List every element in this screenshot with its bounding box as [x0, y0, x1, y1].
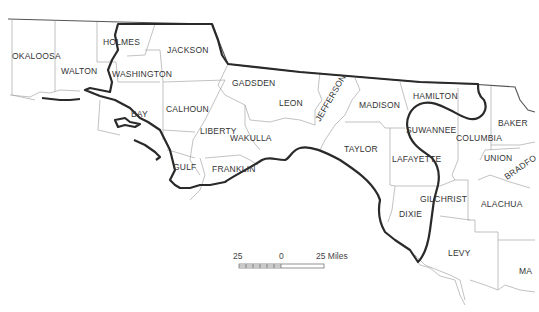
county-label-calhoun: CALHOUN: [166, 104, 209, 114]
county-label-leon: LEON: [279, 98, 303, 108]
county-label-okaloosa: OKALOOSA: [12, 51, 61, 61]
county-label-gadsden: GADSDEN: [232, 78, 275, 88]
florida-panhandle-map: OKALOOSA WALTON HOLMES JACKSON WASHINGTO…: [0, 0, 539, 312]
county-label-holmes: HOLMES: [103, 37, 140, 47]
county-label-marion: MA: [519, 266, 532, 276]
county-boundaries: [12, 20, 535, 300]
county-label-columbia: COLUMBIA: [456, 133, 502, 143]
county-label-lafayette: LAFAYETTE: [392, 154, 441, 164]
county-label-walton: WALTON: [61, 66, 97, 76]
county-label-baker: BAKER: [498, 118, 528, 128]
county-label-taylor: TAYLOR: [344, 144, 378, 154]
county-label-union: UNION: [484, 153, 512, 163]
county-label-jackson: JACKSON: [167, 45, 209, 55]
st-andrews-bay: [115, 118, 140, 127]
county-label-hamilton: HAMILTON: [413, 91, 458, 101]
barrier-island-west: [42, 98, 80, 100]
county-label-wakulla: WAKULLA: [230, 133, 272, 143]
county-label-suwannee: SUWANNEE: [406, 125, 457, 135]
county-label-madison: MADISON: [359, 100, 400, 110]
coastline-west: [10, 90, 80, 97]
coastline-southeast: [413, 255, 465, 305]
county-label-dixie: DIXIE: [399, 209, 422, 219]
county-label-levy: LEVY: [448, 248, 471, 258]
county-label-alachua: ALACHUA: [481, 199, 523, 209]
scale-label-center: 0: [279, 251, 284, 261]
county-label-washington: WASHINGTON: [112, 69, 172, 79]
scale-bar: [239, 264, 324, 268]
county-label-jefferson: JEFFERSON: [313, 73, 348, 123]
county-label-franklin: FRANKLIN: [212, 164, 256, 174]
county-label-bay: BAY: [131, 109, 148, 119]
county-label-gulf: GULF: [173, 162, 196, 172]
region-outline[interactable]: [85, 24, 486, 262]
scale-label-left: 25: [233, 251, 243, 261]
scale-label-right: 25 Miles: [316, 251, 348, 261]
st-joseph-peninsula: [134, 140, 160, 160]
county-label-gilchrist: GILCHRIST: [420, 194, 467, 204]
